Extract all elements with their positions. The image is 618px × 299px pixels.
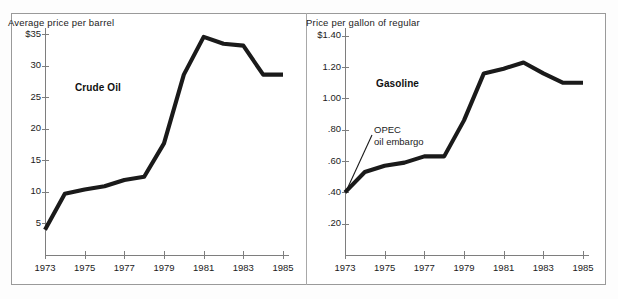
y-tick-label: .60 <box>296 155 341 166</box>
plot-area-crude-oil <box>0 0 295 272</box>
y-tick-label: .40 <box>296 186 341 197</box>
y-tick-label: 1.20 <box>296 61 341 72</box>
chart-panel-crude-oil: Average price per barrel Crude Oil $3530… <box>0 0 295 272</box>
y-tick-label: .80 <box>296 123 341 134</box>
y-tick-label: 10 <box>0 185 41 196</box>
x-tick-label: 1985 <box>560 262 606 273</box>
y-tick-label: 30 <box>0 59 41 70</box>
annotation-line-2: oil embargo <box>374 136 424 148</box>
y-tick-label: $1.40 <box>296 29 341 40</box>
y-tick-label: 5 <box>0 217 41 228</box>
annotation-line-1: OPEC <box>374 124 424 136</box>
plot-area-gasoline <box>296 0 595 272</box>
chart-panel-gasoline: Price per gallon of regular Gasoline OPE… <box>296 0 595 272</box>
y-tick-label: 25 <box>0 91 41 102</box>
annotation-opec-oil-embargo: OPEC oil embargo <box>374 124 424 147</box>
y-tick-label: 1.00 <box>296 92 341 103</box>
y-tick-label: .20 <box>296 217 341 228</box>
figure-two-line-charts: Average price per barrel Crude Oil $3530… <box>0 0 618 299</box>
y-tick-label: 20 <box>0 122 41 133</box>
y-tick-label: 15 <box>0 154 41 165</box>
y-tick-label: $35 <box>0 28 41 39</box>
